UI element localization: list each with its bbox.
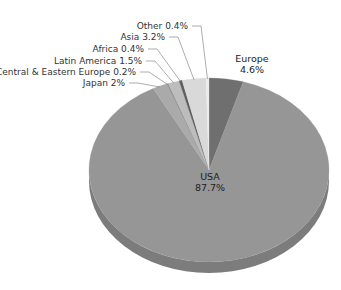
callout-central-eastern-europe: Central & Eastern Europe 0.2% [0,67,136,77]
leader-line-latin-america [146,61,174,83]
europe-value: 4.6% [240,64,264,75]
leader-line-africa [148,49,181,82]
callout-africa: Africa 0.4% [93,44,145,54]
callout-latin-america: Latin America 1.5% [54,56,142,66]
callout-asia: Asia 3.2% [120,32,165,42]
leader-line-other [192,26,207,79]
leader-line-japan [129,83,160,87]
leader-line-central-eastern-europe [140,72,168,85]
callout-japan: Japan 2% [82,78,126,88]
pie-chart: Europe 4.6% USA 87.7% Other 0.4% Asia 3.… [0,0,341,290]
leader-line-asia [169,37,194,80]
usa-label: USA [200,171,220,182]
europe-label: Europe [235,53,269,64]
pie-slices [89,78,329,262]
usa-value: 87.7% [195,182,225,193]
callout-other: Other 0.4% [137,21,189,31]
